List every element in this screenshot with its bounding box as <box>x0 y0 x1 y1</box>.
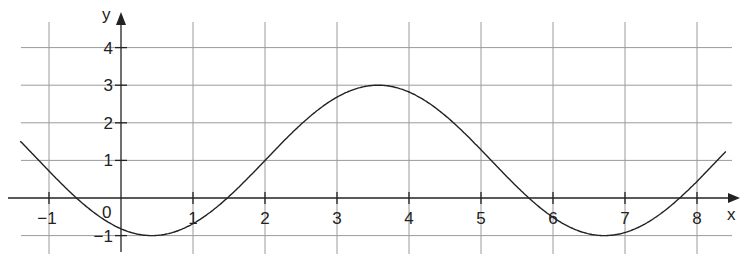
function-graph: x y −112345678−11234 0 <box>0 0 754 268</box>
x-tick-label: 7 <box>620 209 629 228</box>
x-tick-label: 4 <box>404 209 413 228</box>
y-tick-label: −1 <box>94 227 113 246</box>
tick-labels: −112345678−11234 <box>37 39 701 246</box>
x-axis: x <box>8 193 740 224</box>
x-tick-label: −1 <box>37 209 56 228</box>
y-tick-label: 1 <box>104 151 113 170</box>
axis-ticks <box>49 48 697 236</box>
x-axis-label: x <box>727 205 736 224</box>
y-axis-label: y <box>102 5 111 24</box>
y-tick-label: 3 <box>104 76 113 95</box>
x-tick-label: 2 <box>260 209 269 228</box>
x-tick-label: 8 <box>692 209 701 228</box>
x-axis-arrow-icon <box>728 193 740 203</box>
x-tick-label: 5 <box>476 209 485 228</box>
y-tick-label: 2 <box>104 114 113 133</box>
x-tick-label: 6 <box>548 209 557 228</box>
y-axis-arrow-icon <box>116 12 126 25</box>
x-tick-label: 3 <box>332 209 341 228</box>
y-tick-label: 4 <box>104 39 113 58</box>
